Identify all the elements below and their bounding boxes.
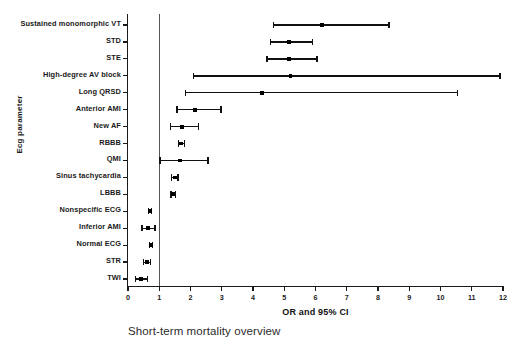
odds-ratio-point	[178, 159, 182, 163]
ci-upper-cap	[198, 123, 199, 129]
ci-lower-cap	[185, 90, 186, 96]
odds-ratio-point	[287, 40, 291, 44]
y-axis-tick-label: Sinus tachycardia	[56, 171, 121, 180]
odds-ratio-point	[171, 192, 175, 196]
y-axis-tick	[123, 211, 127, 212]
ci-upper-cap	[220, 106, 221, 112]
odds-ratio-point	[193, 108, 197, 112]
y-axis-tick-label: STD	[106, 36, 121, 45]
odds-ratio-point	[146, 226, 150, 230]
confidence-interval-line	[267, 58, 317, 59]
ci-lower-cap	[273, 22, 274, 28]
y-axis-tick	[123, 177, 127, 178]
odds-ratio-point	[289, 74, 293, 78]
ci-lower-cap	[270, 39, 271, 45]
y-axis-tick-label: RBBB	[99, 138, 121, 147]
ci-upper-cap	[312, 39, 313, 45]
y-axis-tick	[123, 278, 127, 279]
figure-caption: Short-term mortality overview	[128, 325, 508, 337]
odds-ratio-point	[287, 57, 291, 61]
x-axis-tick	[127, 286, 128, 291]
x-axis-tick	[190, 286, 191, 291]
odds-ratio-point	[180, 125, 184, 129]
y-axis-tick-label: STE	[106, 53, 121, 62]
y-axis-tick-label: Long QRSD	[79, 87, 121, 96]
x-axis-tick	[377, 286, 378, 291]
x-axis-tick-label: 2	[189, 293, 193, 302]
ci-upper-cap	[184, 140, 185, 146]
y-axis-tick-label: Anterior AMI	[76, 104, 121, 113]
confidence-interval-line	[194, 75, 500, 76]
x-axis-tick	[502, 286, 503, 291]
y-axis-tick-label: Inferior AMI	[79, 222, 121, 231]
x-axis-tick-label: 12	[499, 293, 507, 302]
ci-lower-cap	[193, 73, 194, 79]
y-axis-tick-label: Nonspecific ECG	[60, 205, 121, 214]
ci-lower-cap	[176, 106, 177, 112]
y-axis-tick-label: Sustained monomorphic VT	[20, 19, 121, 28]
x-axis-tick-label: 7	[345, 293, 349, 302]
ci-upper-cap	[499, 73, 500, 79]
x-axis-tick	[440, 286, 441, 291]
odds-ratio-point	[320, 23, 324, 27]
y-axis-title: Ecg parameter	[15, 70, 24, 180]
x-axis-tick	[221, 286, 222, 291]
ci-upper-cap	[154, 225, 155, 231]
ci-lower-cap	[135, 276, 136, 282]
x-axis-tick-label: 11	[468, 293, 476, 302]
ci-lower-cap	[266, 56, 267, 62]
x-axis-title: OR and 95% CI	[128, 307, 503, 317]
y-axis-tick	[123, 245, 127, 246]
forest-plot-figure: Ecg parameter Sustained monomorphic VTST…	[0, 0, 523, 351]
y-axis-tick	[123, 126, 127, 127]
y-axis-tick	[123, 194, 127, 195]
confidence-interval-line	[273, 24, 389, 25]
y-axis-tick-label: High-degree AV block	[43, 70, 121, 79]
odds-ratio-point	[149, 243, 153, 247]
ci-upper-cap	[388, 22, 389, 28]
x-axis-tick	[471, 286, 472, 291]
odds-ratio-point	[173, 176, 177, 180]
y-axis-tick	[123, 160, 127, 161]
x-axis-tick	[346, 286, 347, 291]
y-axis-tick-label: Normal ECG	[76, 239, 121, 248]
confidence-interval-line	[160, 160, 208, 161]
confidence-interval-line	[170, 126, 198, 127]
x-axis-tick-label: 4	[251, 293, 255, 302]
confidence-interval-line	[186, 92, 458, 93]
x-axis-tick	[315, 286, 316, 291]
odds-ratio-point	[145, 260, 149, 264]
x-axis-tick-label: 9	[407, 293, 411, 302]
y-axis-tick	[123, 92, 127, 93]
plot-area: Sustained monomorphic VTSTDSTEHigh-degre…	[128, 14, 503, 286]
y-axis-tick-label: TWI	[107, 273, 121, 282]
y-axis-tick	[123, 41, 127, 42]
confidence-interval-line	[177, 109, 221, 110]
y-axis-tick-label: STR	[106, 256, 121, 265]
ci-lower-cap	[141, 225, 142, 231]
y-axis-tick	[123, 58, 127, 59]
y-axis-tick-label: LBBB	[100, 188, 121, 197]
y-axis-tick	[123, 24, 127, 25]
y-axis-tick	[123, 261, 127, 262]
reference-line-or-1	[159, 14, 160, 286]
x-axis-tick	[284, 286, 285, 291]
x-axis-tick-label: 0	[126, 293, 130, 302]
y-axis-spine	[127, 14, 128, 286]
x-axis-tick-label: 6	[314, 293, 318, 302]
y-axis-tick	[123, 143, 127, 144]
ci-lower-cap	[170, 123, 171, 129]
x-axis-tick	[159, 286, 160, 291]
ci-upper-cap	[457, 90, 458, 96]
ci-upper-cap	[147, 276, 148, 282]
ci-upper-cap	[316, 56, 317, 62]
odds-ratio-point	[260, 91, 264, 95]
confidence-interval-line	[270, 41, 312, 42]
y-axis-tick-label: New AF	[94, 121, 121, 130]
x-axis-tick	[409, 286, 410, 291]
x-axis-tick-label: 10	[437, 293, 445, 302]
x-axis-tick	[252, 286, 253, 291]
ci-upper-cap	[150, 259, 151, 265]
x-axis-tick-label: 8	[376, 293, 380, 302]
x-axis-tick-label: 3	[220, 293, 224, 302]
